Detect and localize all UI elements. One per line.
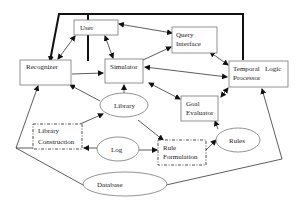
label-query-2: Interface (176, 40, 201, 48)
edge-user-recognizer (58, 36, 75, 59)
edge-library-rulef (138, 120, 163, 140)
label-library: Library (114, 102, 135, 110)
edge-simulator-temporal (145, 67, 227, 77)
edge-recognizer-simulator (72, 73, 103, 74)
edge-rulef-rules (206, 140, 216, 150)
label-rulef-1: Rule (163, 144, 176, 152)
node-goal-evaluator: Goal Evaluator (181, 96, 218, 121)
node-user: User (74, 20, 118, 35)
edge-rules-goal (215, 121, 218, 129)
label-user: User (80, 24, 94, 32)
node-database: Database (83, 172, 167, 196)
architecture-diagram: User Query Interface Recognizer Simulato… (0, 0, 304, 208)
label-query-1: Query (176, 31, 194, 39)
edge-libcons-library (80, 114, 103, 124)
label-goal-2: Evaluator (186, 109, 214, 117)
edge-library-recognizer (70, 85, 100, 101)
node-temporal-logic-processor: Temporal Logic Processor (229, 61, 288, 87)
node-simulator: Simulator (105, 59, 143, 83)
edge-simulator-goal (149, 83, 180, 99)
label-temporal-2: Processor (233, 74, 261, 82)
node-rules: Rules (216, 128, 260, 152)
label-database: Database (97, 181, 123, 189)
label-simulator: Simulator (110, 63, 138, 71)
edge-query-temporal (210, 52, 228, 65)
label-rulef-2: Formulation (163, 153, 198, 161)
node-rule-formulation: Rule Formulation (158, 140, 206, 165)
node-library: Library (100, 93, 148, 117)
node-recognizer: Recognizer (20, 60, 71, 85)
edge-user-simulator (105, 36, 113, 58)
label-log: Log (111, 146, 123, 154)
label-libcons-2: Construction (38, 138, 75, 146)
node-query-interface: Query Interface (172, 27, 217, 53)
label-rules: Rules (229, 137, 245, 145)
edge-simulator-query (143, 47, 171, 60)
edge-goal-temporal (221, 88, 228, 97)
label-recognizer: Recognizer (26, 63, 59, 71)
edge-user-query (119, 24, 172, 33)
node-log: Log (97, 137, 139, 161)
label-libcons-1: Library (38, 127, 59, 135)
node-library-construction: Library Construction (33, 124, 82, 149)
label-goal-1: Goal (186, 100, 200, 108)
label-temporal-1: Temporal Logic (233, 65, 281, 73)
